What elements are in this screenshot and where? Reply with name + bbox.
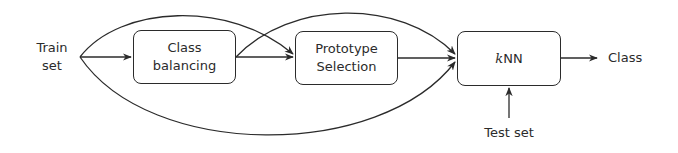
- pipeline-diagram: Train set Class balancing Prototype Sele…: [0, 0, 678, 153]
- class-balancing-node: Class balancing: [133, 30, 236, 84]
- knn-label: kNN: [495, 50, 522, 68]
- prototype-selection-line1: Prototype: [315, 40, 378, 58]
- knn-rest: NN: [503, 51, 522, 66]
- prototype-selection-node: Prototype Selection: [295, 31, 398, 85]
- train-set-line2: set: [32, 57, 72, 75]
- knn-node: kNN: [457, 31, 561, 86]
- test-set-label: Test set: [481, 124, 537, 142]
- train-set-label: Train set: [32, 39, 72, 75]
- class-output-label: Class: [608, 49, 642, 67]
- class-balancing-line1: Class: [153, 39, 216, 57]
- class-balancing-line2: balancing: [153, 57, 216, 75]
- prototype-selection-line2: Selection: [315, 58, 378, 76]
- train-set-line1: Train: [32, 39, 72, 57]
